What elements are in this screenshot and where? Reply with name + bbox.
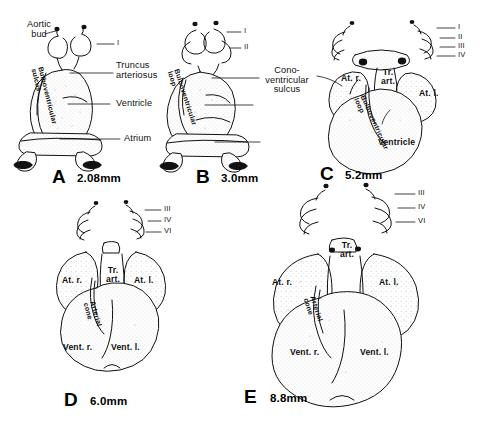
label-d-tr-line2: art. — [106, 274, 120, 284]
label-e-left-ventricle: Vent. l. — [360, 348, 389, 357]
label-e-arch-4: IV — [418, 203, 426, 211]
label-aortic-bud-line1: Aortic — [27, 19, 51, 29]
label-d-left-atrium: At. l. — [134, 276, 154, 285]
panel-e-drawing — [272, 183, 419, 407]
label-ventricle-callout: Ventricle — [116, 99, 152, 109]
label-e-right-atrium: At. r. — [272, 278, 292, 287]
label-c-arch-3: III — [458, 42, 465, 50]
heart-development-figure: Aortic bud I Truncus arteriosus Ventricl… — [0, 0, 488, 429]
label-d-arch-6: VI — [164, 227, 172, 235]
panel-a-id: A — [52, 166, 66, 188]
label-c-arch-1: I — [458, 23, 460, 31]
panel-c-size: 5.2mm — [345, 169, 382, 181]
label-e-right-ventricle: Vent. r. — [290, 348, 319, 357]
label-b-arch-2: II — [244, 43, 249, 51]
panel-a-size: 2.08mm — [77, 172, 121, 184]
label-c-arch-4: IV — [458, 51, 466, 59]
label-d-right-ventricle: Vent. r. — [63, 343, 92, 352]
label-e-left-atrium: At. l. — [379, 278, 399, 287]
label-truncus-line1: Truncus — [116, 60, 150, 70]
label-e-tr-line2: art. — [340, 249, 354, 259]
label-cono-line1: Cono-ventricular — [265, 65, 308, 85]
label-atrium-callout: Atrium — [124, 134, 151, 144]
panel-e-leaders — [395, 194, 415, 222]
panel-b-id: B — [196, 166, 210, 188]
label-d-arch-3: III — [164, 205, 171, 213]
panel-a-drawing — [14, 25, 102, 171]
label-truncus-line2: arteriosus — [116, 70, 157, 80]
label-c-right-atrium: At. r. — [341, 74, 361, 83]
label-cono-line2: sulcus — [274, 84, 301, 94]
label-e-truncus-arteriosus: Tr. art. — [335, 241, 359, 259]
label-d-arch-4: IV — [164, 216, 172, 224]
panel-b-size: 3.0mm — [221, 172, 258, 184]
label-e-arch-3: III — [418, 189, 425, 197]
panel-d-size: 6.0mm — [90, 395, 127, 407]
label-d-truncus-arteriosus: Tr. art. — [101, 266, 125, 284]
label-aortic-bud-line2: bud — [31, 29, 47, 39]
label-c-left-atrium: At. l. — [419, 89, 439, 98]
label-d-left-ventricle: Vent. l. — [111, 343, 140, 352]
label-c-ventricle: Ventricle — [378, 138, 415, 147]
panel-c-id: C — [320, 163, 334, 185]
label-c-arch-2: II — [458, 33, 463, 41]
label-c-truncus-arteriosus: Tr. art. — [376, 68, 400, 86]
panel-d-leaders — [145, 210, 161, 232]
panel-d-id: D — [64, 389, 78, 411]
label-e-arch-6: VI — [418, 217, 426, 225]
label-aortic-bud: Aortic bud — [6, 20, 72, 39]
label-b-arch-1: I — [244, 27, 246, 35]
figure-artwork — [0, 0, 488, 429]
label-d-right-atrium: At. r. — [62, 276, 82, 285]
label-c-tr-line2: art. — [381, 76, 395, 86]
panel-e-id: E — [244, 386, 257, 408]
label-a-arch-1: I — [117, 39, 119, 47]
label-cono-ventricular-sulcus: Cono-ventricular sulcus — [256, 66, 318, 95]
panel-e-size: 8.8mm — [270, 392, 307, 404]
